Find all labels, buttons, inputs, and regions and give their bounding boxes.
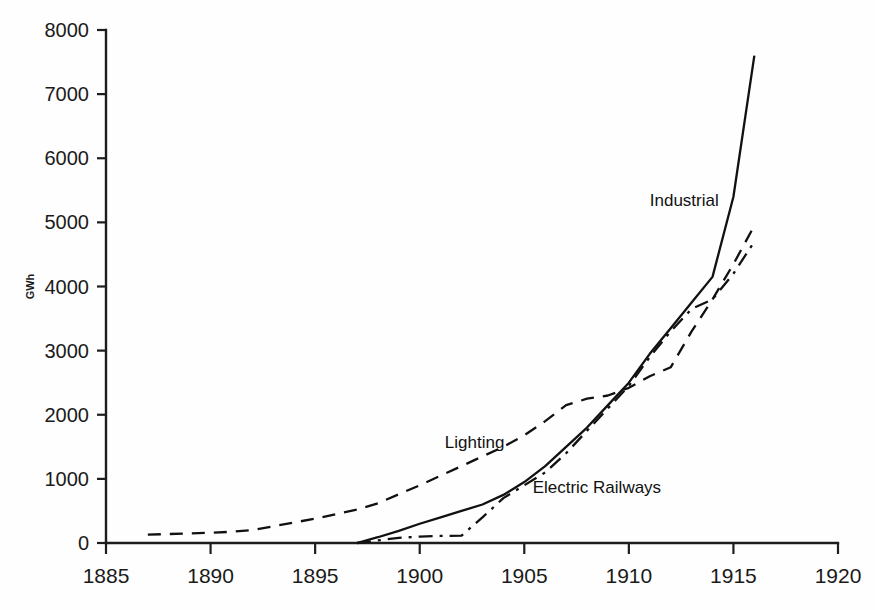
y-tick-label: 2000 bbox=[45, 404, 90, 426]
chart-container: 010002000300040005000600070008000 GWh 18… bbox=[0, 0, 875, 610]
y-tick-label: 7000 bbox=[45, 83, 90, 105]
y-tick-label: 4000 bbox=[45, 276, 90, 298]
series-line-electric-railways bbox=[357, 242, 754, 543]
x-tick-label: 1915 bbox=[710, 564, 757, 587]
y-axis-ticks: 010002000300040005000600070008000 bbox=[45, 19, 107, 554]
x-tick-label: 1895 bbox=[292, 564, 339, 587]
x-tick-label: 1905 bbox=[501, 564, 548, 587]
y-axis-group: 010002000300040005000600070008000 GWh bbox=[24, 19, 106, 554]
series-annotations: IndustrialLightingElectric Railways bbox=[445, 191, 719, 497]
y-tick-label: 0 bbox=[78, 532, 89, 554]
series-line-lighting bbox=[148, 226, 755, 535]
x-tick-label: 1910 bbox=[605, 564, 652, 587]
x-tick-label: 1890 bbox=[187, 564, 234, 587]
y-tick-label: 3000 bbox=[45, 340, 90, 362]
x-axis-ticks: 18851890189519001905191019151920 bbox=[83, 543, 862, 587]
x-axis-group: 18851890189519001905191019151920 bbox=[83, 543, 862, 587]
y-tick-label: 6000 bbox=[45, 147, 90, 169]
x-tick-label: 1920 bbox=[815, 564, 862, 587]
series-line-industrial bbox=[357, 56, 754, 543]
x-tick-label: 1885 bbox=[83, 564, 130, 587]
x-tick-label: 1900 bbox=[396, 564, 443, 587]
series-lines bbox=[148, 56, 755, 543]
y-tick-label: 8000 bbox=[45, 19, 90, 41]
y-tick-label: 1000 bbox=[45, 468, 90, 490]
line-chart: 010002000300040005000600070008000 GWh 18… bbox=[0, 0, 875, 610]
series-label-lighting: Lighting bbox=[445, 433, 505, 452]
y-tick-label: 5000 bbox=[45, 211, 90, 233]
series-label-electric-railways: Electric Railways bbox=[533, 478, 661, 497]
series-label-industrial: Industrial bbox=[650, 191, 719, 210]
y-axis-title: GWh bbox=[24, 273, 36, 299]
